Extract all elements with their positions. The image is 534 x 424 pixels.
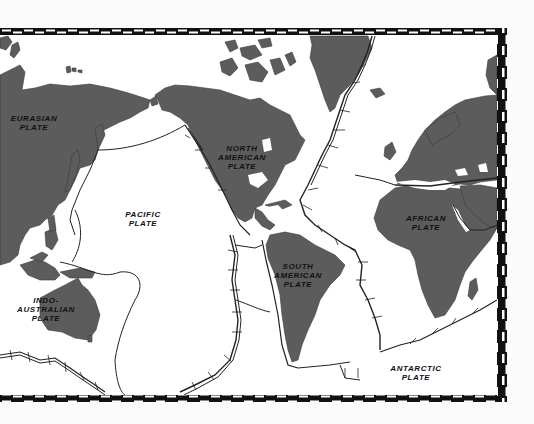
label-antarctic-plate: ANTARCTIC PLATE: [384, 364, 448, 382]
label-african-plate: AFRICAN PLATE: [400, 214, 452, 232]
map-border-bottom: [0, 395, 507, 402]
tectonic-plate-map: [0, 0, 534, 424]
map-border-top: [0, 28, 507, 35]
label-pacific-plate: PACIFIC PLATE: [116, 210, 170, 228]
label-indo-australian-plate: INDO- AUSTRALIAN PLATE: [10, 296, 82, 323]
label-north-american-plate: NORTH AMERICAN PLATE: [212, 144, 272, 171]
label-south-american-plate: SOUTH AMERICAN PLATE: [268, 262, 328, 289]
map-border-right: [497, 28, 507, 402]
label-eurasian-plate: EURASIAN PLATE: [8, 114, 60, 132]
